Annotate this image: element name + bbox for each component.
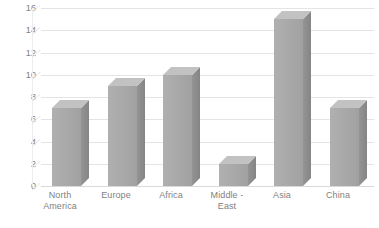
x-axis-label-line: North bbox=[32, 190, 88, 201]
bar-front-face bbox=[219, 164, 248, 186]
bar-side-face bbox=[359, 100, 367, 186]
bar-front-face bbox=[274, 19, 303, 186]
bar-front-face bbox=[330, 108, 359, 186]
bar[interactable] bbox=[330, 108, 359, 186]
x-axis-tick-label: Africa bbox=[143, 190, 199, 201]
bar[interactable] bbox=[108, 86, 137, 186]
bar-front-face bbox=[108, 86, 137, 186]
bar-side-face bbox=[192, 67, 200, 186]
x-axis-label-line: Asia bbox=[254, 190, 310, 201]
axis-floor-line bbox=[41, 186, 374, 187]
x-axis-tick-label: Middle -East bbox=[199, 190, 255, 212]
x-axis-label-line: East bbox=[199, 201, 255, 212]
x-axis-label-line: China bbox=[310, 190, 366, 201]
x-axis-tick-label: Asia bbox=[254, 190, 310, 201]
bar-chart: 1614121086420 NorthAmericaEuropeAfricaMi… bbox=[0, 0, 379, 228]
bar[interactable] bbox=[274, 19, 303, 186]
bar-side-face bbox=[81, 100, 89, 186]
x-axis-label-line: Africa bbox=[143, 190, 199, 201]
bars-layer bbox=[41, 8, 374, 186]
bar[interactable] bbox=[52, 108, 81, 186]
x-axis-tick-label: NorthAmerica bbox=[32, 190, 88, 212]
bar-side-face bbox=[303, 11, 311, 186]
bar-front-face bbox=[52, 108, 81, 186]
x-axis-label-line: America bbox=[32, 201, 88, 212]
x-axis: NorthAmericaEuropeAfricaMiddle -EastAsia… bbox=[32, 190, 379, 228]
x-axis-tick-label: Europe bbox=[88, 190, 144, 201]
bar[interactable] bbox=[163, 75, 192, 186]
bar-front-face bbox=[163, 75, 192, 186]
x-axis-label-line: Europe bbox=[88, 190, 144, 201]
bar[interactable] bbox=[219, 164, 248, 186]
bar-side-face bbox=[137, 78, 145, 186]
x-axis-label-line: Middle - bbox=[199, 190, 255, 201]
x-axis-tick-label: China bbox=[310, 190, 366, 201]
